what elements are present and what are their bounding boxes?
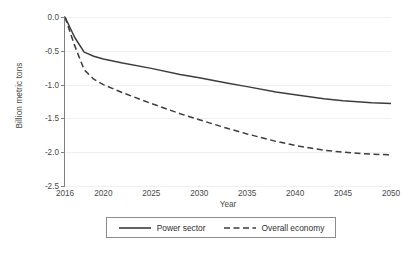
x-tick-label: 2030 <box>190 189 208 198</box>
y-tick-label: -2.0 <box>33 148 59 157</box>
chart-legend: Power sector Overall economy <box>106 217 336 238</box>
y-axis-title-label: Billion metric tons <box>15 62 24 128</box>
x-tick-label: 2045 <box>334 189 352 198</box>
emissions-line-chart: Billion metric tons 0.0-0.5-1.0-1.5-2.0-… <box>0 0 408 255</box>
y-axis-tick-labels: 0.0-0.5-1.0-1.5-2.0-2.5 <box>28 0 59 255</box>
y-tick-mark <box>61 17 65 18</box>
y-tick-label: -0.5 <box>33 46 59 55</box>
y-tick-mark <box>61 152 65 153</box>
dashed-line-icon <box>223 224 257 232</box>
y-tick-mark <box>61 186 65 187</box>
legend-item-power-sector: Power sector <box>118 223 206 233</box>
y-tick-mark <box>61 85 65 86</box>
gridline <box>65 186 391 187</box>
solid-line-icon <box>118 224 152 232</box>
plot-area <box>65 17 391 186</box>
x-tick-label: 2035 <box>238 189 256 198</box>
y-tick-label: -1.0 <box>33 80 59 89</box>
y-tick-mark <box>61 118 65 119</box>
y-tick-label: -1.5 <box>33 114 59 123</box>
x-tick-label: 2020 <box>94 189 112 198</box>
legend-label-overall-economy: Overall economy <box>262 223 325 233</box>
series-line-power-sector <box>65 17 391 104</box>
x-tick-label: 2025 <box>142 189 160 198</box>
y-tick-label: 0.0 <box>33 13 59 22</box>
legend-label-power-sector: Power sector <box>157 223 206 233</box>
y-tick-mark <box>61 51 65 52</box>
series-container <box>65 17 391 186</box>
x-tick-label: 2050 <box>382 189 400 198</box>
series-line-overall-economy <box>65 17 391 155</box>
x-tick-label: 2040 <box>286 189 304 198</box>
legend-item-overall-economy: Overall economy <box>223 223 325 233</box>
x-tick-label: 2016 <box>56 189 74 198</box>
x-axis-title: Year <box>65 200 391 209</box>
